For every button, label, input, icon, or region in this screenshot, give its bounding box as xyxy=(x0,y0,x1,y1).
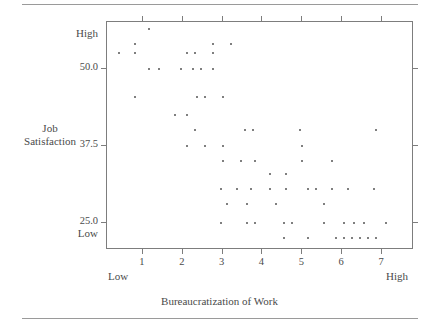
data-point xyxy=(323,203,325,205)
data-point xyxy=(212,43,214,45)
plot-area xyxy=(106,21,413,249)
x-tick-label: 3 xyxy=(212,256,232,267)
y-axis-tick-left xyxy=(101,145,106,146)
data-point xyxy=(222,96,224,98)
data-point xyxy=(373,188,375,190)
x-tick-label: 2 xyxy=(172,256,192,267)
data-point xyxy=(204,96,206,98)
x-tick-label: 5 xyxy=(291,256,311,267)
y-axis-high-label: High xyxy=(64,27,98,39)
data-point xyxy=(343,237,345,239)
data-point xyxy=(323,222,325,224)
data-point xyxy=(186,52,188,54)
data-point xyxy=(269,173,271,175)
data-point xyxy=(353,222,355,224)
x-axis-tick-top xyxy=(222,16,223,21)
y-axis-tick-left xyxy=(101,68,106,69)
data-point xyxy=(148,28,150,30)
x-axis-tick-bottom xyxy=(341,249,342,254)
data-point xyxy=(315,188,317,190)
data-point xyxy=(134,52,136,54)
data-point xyxy=(301,160,303,162)
data-point xyxy=(359,237,361,239)
x-axis-tick-bottom xyxy=(261,249,262,254)
data-point xyxy=(250,188,252,190)
data-point xyxy=(363,222,365,224)
x-tick-label: 7 xyxy=(371,256,391,267)
data-point xyxy=(269,188,271,190)
y-tick-label: 25.0 xyxy=(54,215,98,226)
data-point xyxy=(194,52,196,54)
data-point xyxy=(220,222,222,224)
data-point xyxy=(148,68,150,70)
data-point xyxy=(335,237,337,239)
data-point xyxy=(236,188,238,190)
y-axis-tick-right xyxy=(413,145,418,146)
data-point xyxy=(180,68,182,70)
scatterplot-figure: 1234567 50.037.525.0 Low High High Low B… xyxy=(0,0,439,330)
data-point xyxy=(375,129,377,131)
x-axis-tick-top xyxy=(341,16,342,21)
data-point xyxy=(307,188,309,190)
data-point xyxy=(252,129,254,131)
y-axis-title: Job Satisfaction xyxy=(2,122,98,148)
data-point xyxy=(244,129,246,131)
data-point xyxy=(331,188,333,190)
data-point xyxy=(222,160,224,162)
y-axis-title-line-2: Satisfaction xyxy=(2,135,98,148)
data-point xyxy=(385,222,387,224)
data-point xyxy=(285,173,287,175)
data-point xyxy=(192,68,194,70)
data-point xyxy=(200,68,202,70)
x-axis-tick-bottom xyxy=(222,249,223,254)
figure-bottom-rule xyxy=(22,318,418,319)
x-axis-tick-bottom xyxy=(381,249,382,254)
data-point xyxy=(367,237,369,239)
data-point xyxy=(118,52,120,54)
x-axis-tick-bottom xyxy=(301,249,302,254)
data-point xyxy=(285,188,287,190)
data-point xyxy=(220,188,222,190)
x-axis-tick-top xyxy=(381,16,382,21)
data-point xyxy=(212,68,214,70)
x-axis-tick-top xyxy=(261,16,262,21)
data-point xyxy=(347,188,349,190)
data-point xyxy=(343,222,345,224)
data-point xyxy=(307,237,309,239)
y-tick-label: 50.0 xyxy=(54,61,98,72)
y-axis-tick-right xyxy=(413,222,418,223)
x-axis-low-label: Low xyxy=(108,270,128,282)
data-point xyxy=(186,145,188,147)
data-point xyxy=(196,96,198,98)
x-axis-title: Bureaucratization of Work xyxy=(0,295,439,307)
scatter-points-layer xyxy=(107,22,412,248)
x-axis-tick-bottom xyxy=(182,249,183,254)
data-point xyxy=(254,160,256,162)
data-point xyxy=(246,203,248,205)
data-point xyxy=(246,222,248,224)
x-tick-label: 1 xyxy=(132,256,152,267)
data-point xyxy=(351,237,353,239)
data-point xyxy=(134,43,136,45)
y-axis-tick-left xyxy=(101,222,106,223)
data-point xyxy=(230,43,232,45)
data-point xyxy=(375,237,377,239)
x-axis-tick-bottom xyxy=(142,249,143,254)
x-axis-high-label: High xyxy=(386,270,408,282)
data-point xyxy=(240,160,242,162)
x-axis-tick-top xyxy=(301,16,302,21)
x-axis-tick-top xyxy=(142,16,143,21)
data-point xyxy=(134,96,136,98)
data-point xyxy=(254,222,256,224)
x-axis-tick-top xyxy=(182,16,183,21)
data-point xyxy=(299,129,301,131)
data-point xyxy=(283,237,285,239)
data-point xyxy=(204,145,206,147)
data-point xyxy=(212,52,214,54)
figure-top-rule xyxy=(22,4,418,5)
x-tick-label: 4 xyxy=(251,256,271,267)
y-axis-tick-right xyxy=(413,68,418,69)
data-point xyxy=(194,129,196,131)
data-point xyxy=(301,145,303,147)
data-point xyxy=(174,114,176,116)
